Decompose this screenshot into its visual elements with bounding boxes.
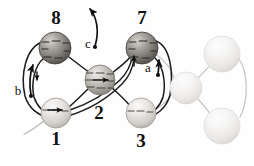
diagram-canvas: 8 7 2 1 3 a b c <box>0 0 254 166</box>
molecular-diagram <box>0 0 254 166</box>
bond-tail-node1 <box>24 121 44 134</box>
atom-faded-top <box>204 36 240 72</box>
atom-faded-bottom <box>204 108 240 144</box>
node-label-2: 2 <box>94 103 104 122</box>
bond-8-2 <box>69 57 90 73</box>
node-label-7: 7 <box>137 8 147 27</box>
node-label-1: 1 <box>51 129 61 148</box>
faded-bond-top-right <box>239 59 246 117</box>
arrow-label-c: c <box>85 37 91 50</box>
atom-faded-center <box>170 72 202 104</box>
atom-node-1 <box>41 98 71 128</box>
mechanism-arrow-a-tail <box>156 73 160 77</box>
mechanism-arrow-c-tail <box>93 45 97 49</box>
atom-node-8 <box>39 32 71 64</box>
node-label-3: 3 <box>136 131 146 150</box>
atom-node-7 <box>126 32 158 64</box>
mechanism-arrow-a <box>158 60 159 74</box>
mechanism-arrow-b-tail <box>29 94 33 98</box>
arrow-label-b: b <box>15 84 22 97</box>
node-label-8: 8 <box>51 8 61 27</box>
arrow-label-a: a <box>145 61 151 74</box>
atom-node-3 <box>126 98 156 128</box>
